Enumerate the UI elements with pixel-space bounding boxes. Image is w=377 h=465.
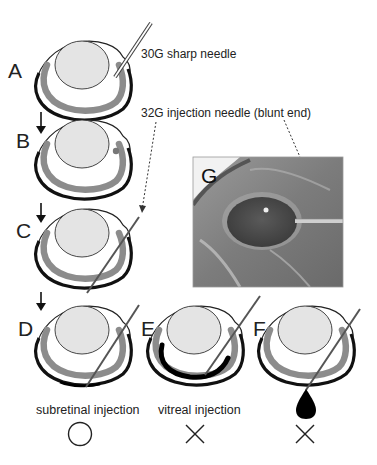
- panel-d: D: [18, 305, 139, 387]
- panel-label-a: A: [8, 59, 22, 82]
- puncture-hole: [113, 148, 119, 154]
- caption-subretinal: subretinal injection: [36, 403, 140, 417]
- panel-label-b: B: [16, 129, 30, 152]
- failure-cross-icon: [186, 425, 204, 443]
- panel-e: E: [141, 296, 260, 385]
- panel-label-c: C: [16, 219, 31, 242]
- leaked-fluid-drop: [296, 389, 316, 419]
- panel-label-d: D: [18, 317, 33, 340]
- eye-d: [36, 306, 132, 385]
- panel-b: B: [16, 120, 131, 199]
- eye-b: [36, 120, 132, 199]
- panel-label-g: G: [201, 164, 217, 187]
- pointer-to-c: [139, 122, 156, 213]
- eye-f: [259, 306, 355, 385]
- sharp-needle-label: 30G sharp needle: [141, 47, 237, 61]
- failure-cross-icon: [296, 425, 314, 443]
- arrow-c-d: [36, 292, 46, 311]
- injection-diagram: A 30G sharp needle B 32G injection needl…: [0, 0, 377, 465]
- success-circle-icon: [69, 423, 92, 446]
- panel-c: C: [16, 209, 139, 293]
- arrow-b-c: [36, 203, 46, 223]
- injection-needle-label: 32G injection needle (blunt end): [141, 106, 311, 120]
- caption-vitreal: vitreal injection: [158, 403, 241, 417]
- panel-g-photo: G: [193, 157, 345, 287]
- panel-f: F: [253, 306, 360, 419]
- eye-a: [36, 41, 132, 120]
- arrow-a-b: [36, 112, 46, 134]
